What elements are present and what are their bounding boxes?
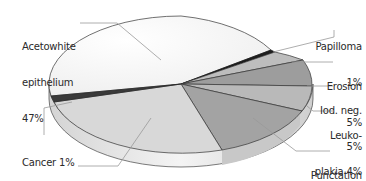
- label-leukoplakia-name: Leuko-: [315, 130, 362, 142]
- label-mosaic: Mosaic 26%: [22, 160, 80, 181]
- label-papilloma-name: Papilloma: [315, 41, 362, 53]
- label-acetowhite-value: 47%: [22, 113, 76, 125]
- label-punctation: Punctation 12%: [311, 146, 362, 181]
- label-punctation-name: Punctation: [311, 170, 362, 181]
- label-acetowhite-line1: Acetowhite: [22, 41, 76, 53]
- label-acetowhite-line2: epithelium: [22, 77, 76, 89]
- label-acetowhite: Acetowhite epithelium 47%: [22, 17, 76, 137]
